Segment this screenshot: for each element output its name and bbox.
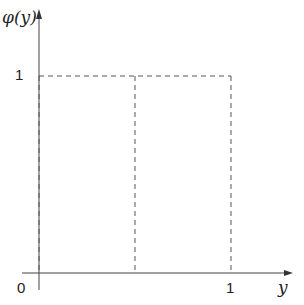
y-axis-label: φ(y) [2,7,37,27]
y-tick-1: 1 [15,66,23,83]
x-axis-arrow-icon [284,270,293,276]
x-tick-1: 1 [226,279,234,296]
plot-canvas [0,0,304,305]
y-axis-arrow-icon [36,9,42,19]
x-axis-label: y [278,277,288,297]
origin-label: 0 [17,279,25,296]
